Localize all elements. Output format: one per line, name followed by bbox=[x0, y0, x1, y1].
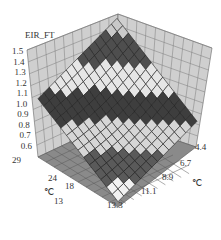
x-axis-unit: ℃ bbox=[44, 187, 54, 197]
z-tick: 1.3 bbox=[14, 67, 25, 77]
z-tick: 1.1 bbox=[17, 88, 28, 98]
z-tick: 1.2 bbox=[16, 78, 27, 88]
y-axis-unit: ℃ bbox=[192, 178, 202, 188]
y-tick: 8.9 bbox=[162, 172, 173, 182]
x-tick: 24 bbox=[48, 173, 57, 183]
z-tick: 0.8 bbox=[18, 120, 29, 130]
z-tick: 0.6 bbox=[21, 141, 32, 151]
x-tick: 29 bbox=[12, 155, 21, 165]
y-tick: 13.3 bbox=[107, 200, 123, 210]
x-tick: 18 bbox=[65, 181, 74, 191]
z-tick: 1.0 bbox=[16, 99, 27, 109]
z-axis-label: EIR_FT bbox=[25, 30, 55, 40]
z-tick: 1.4 bbox=[13, 57, 24, 67]
z-tick: 1.5 bbox=[12, 46, 23, 56]
y-tick: 6.7 bbox=[180, 158, 191, 168]
z-tick: 0.9 bbox=[17, 109, 28, 119]
y-tick: 4.4 bbox=[195, 142, 206, 152]
x-tick: 13 bbox=[54, 196, 63, 206]
y-tick: 11.1 bbox=[141, 186, 156, 196]
z-tick: 0.7 bbox=[20, 130, 31, 140]
